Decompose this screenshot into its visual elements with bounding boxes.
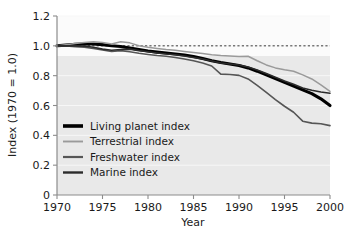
y-tick-label: 0.8	[33, 70, 51, 83]
x-tick-label: 1980	[134, 201, 162, 214]
x-tick-label: 1995	[271, 201, 299, 214]
legend-label-freshwater-index: Freshwater index	[90, 151, 180, 163]
x-axis-title: Year	[180, 216, 205, 229]
y-axis-ticks: 00.20.40.60.81.01.2	[33, 10, 58, 202]
x-axis-ticks: 1970197519801985199019952000	[43, 195, 344, 214]
y-tick-label: 1.2	[33, 10, 51, 23]
x-tick-label: 2000	[316, 201, 344, 214]
x-tick-label: 1985	[180, 201, 208, 214]
x-tick-label: 1990	[225, 201, 253, 214]
chart-figure: 00.20.40.60.81.01.2 19701975198019851990…	[0, 0, 346, 232]
y-axis-title: Index (1970 = 1.0)	[6, 53, 19, 157]
y-tick-label: 1.0	[33, 40, 51, 53]
legend-label-living-planet-index: Living planet index	[90, 120, 190, 132]
y-tick-label: 0.2	[33, 159, 51, 172]
legend-label-terrestrial-index: Terrestrial index	[89, 135, 174, 147]
x-tick-label: 1970	[43, 201, 71, 214]
legend-label-marine-index: Marine index	[90, 166, 158, 178]
line-chart: 00.20.40.60.81.01.2 19701975198019851990…	[0, 0, 346, 232]
y-tick-label: 0.6	[33, 100, 51, 113]
x-tick-label: 1975	[89, 201, 117, 214]
y-tick-label: 0.4	[33, 129, 51, 142]
